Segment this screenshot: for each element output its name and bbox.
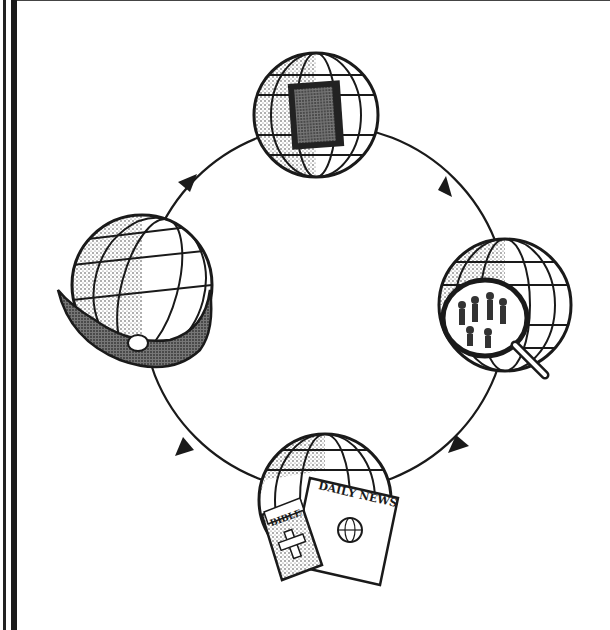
arrow-icon — [175, 174, 469, 456]
cycle-diagram: DAILY NEWS BIBLE — [0, 0, 610, 630]
